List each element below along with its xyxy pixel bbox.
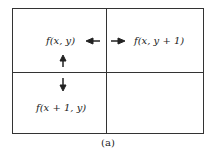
arrow-up-icon [60, 55, 66, 67]
arrows-layer [0, 0, 216, 154]
arrow-left-icon [86, 38, 100, 44]
arrow-right-icon [111, 38, 125, 44]
arrow-down-icon [60, 78, 66, 91]
caption: (a) [0, 137, 216, 148]
